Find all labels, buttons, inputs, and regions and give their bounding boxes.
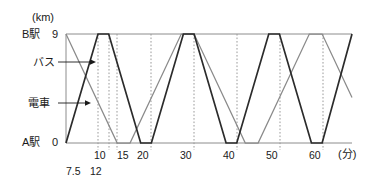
- chart-figure: (km) B駅 9 A駅 0 バス 電車 10 15 20 30 40 50 6…: [0, 0, 372, 185]
- annotation-leader-bus: [58, 59, 96, 65]
- plot-area: [0, 0, 372, 185]
- series-line-bus: [66, 34, 352, 143]
- annotation-leader-train: [58, 100, 91, 106]
